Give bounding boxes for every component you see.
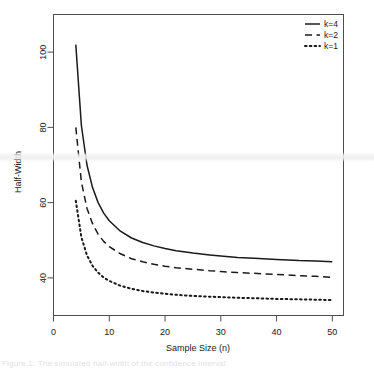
legend-label-k1: k=1 [324,41,338,51]
legend-label-k2: k=2 [324,30,338,40]
series-line-k4 [76,45,333,262]
x-tick-label: 10 [104,327,114,337]
x-tick-label: 20 [160,327,170,337]
caption-fragment: Figure 1: The simulated half-width of th… [2,358,302,370]
half-width-line-chart: 01020304050 406080100 Sample Size (n) Ha… [0,0,374,372]
x-tick-label: 50 [327,327,337,337]
y-tick-label: 40 [38,273,48,283]
figure-container: 01020304050 406080100 Sample Size (n) Ha… [0,0,374,372]
x-tick-label: 30 [216,327,226,337]
data-series-layer [76,45,333,300]
chart-legend: k=4k=2k=1 [301,16,343,56]
y-tick-label: 80 [38,122,48,132]
y-axis-ticks: 406080100 [38,45,54,283]
x-axis-title: Sample Size (n) [166,343,230,353]
legend-label-k4: k=4 [324,19,338,29]
x-axis-ticks: 01020304050 [51,316,337,337]
x-tick-label: 0 [51,327,56,337]
y-tick-label: 60 [38,198,48,208]
y-axis-title: Half-Width [13,151,23,193]
y-tick-label: 100 [38,45,48,60]
x-tick-label: 40 [272,327,282,337]
